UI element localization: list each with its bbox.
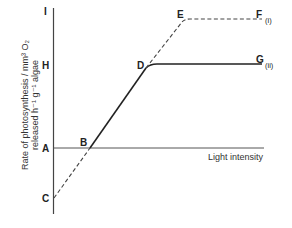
- label-C: C: [42, 193, 49, 204]
- curve-i-d-e-f: [146, 19, 262, 68]
- curve-dashed-c-b: [54, 148, 90, 198]
- x-axis-label: Light intensity: [208, 152, 264, 162]
- label-E: E: [177, 9, 184, 20]
- label-H: H: [42, 60, 49, 71]
- label-B: B: [80, 137, 87, 148]
- photosynthesis-chart: I H A C B D E F G (i) (ii) Light intensi…: [0, 0, 292, 228]
- curve-solid-b-d: [90, 68, 146, 148]
- y-axis-label: Rate of photosynthesis / mm³ O₂ released…: [20, 20, 40, 190]
- y-axis-label-line2: released h⁻¹ g⁻¹ algae: [30, 20, 40, 190]
- label-D: D: [137, 60, 144, 71]
- label-F: F: [256, 9, 262, 20]
- label-curve-i: (i): [265, 16, 272, 25]
- label-curve-ii: (ii): [265, 61, 274, 70]
- y-axis-label-line1: Rate of photosynthesis / mm³ O₂: [20, 20, 30, 190]
- label-I: I: [44, 6, 47, 17]
- label-A: A: [42, 143, 49, 154]
- curve-ii-d-g: [146, 64, 262, 68]
- label-G: G: [256, 54, 264, 65]
